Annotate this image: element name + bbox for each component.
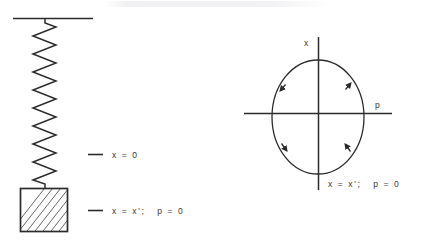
figure-canvas: x = 0 x = x'; p = 0 x p [0,0,436,246]
phase-space-group: x p x = x'; p = 0 [244,37,400,190]
momentum-axis-label: p [375,100,380,110]
equilibrium-label: x = 0 [112,150,139,160]
position-axis-label: x [304,38,309,48]
mass-spring-group: x = 0 x = x'; p = 0 [4,19,184,241]
arrow-lower-right-icon [346,145,351,152]
arrow-upper-left-icon [281,85,286,91]
arrow-upper-right-icon [346,84,351,90]
turning-point-label-left: x = x'; p = 0 [112,206,184,216]
physics-figure: x = 0 x = x'; p = 0 x p [0,0,436,246]
mass-block [4,184,104,240]
arrow-lower-left-icon [282,144,287,151]
turning-point-label-right: x = x'; p = 0 [328,179,400,189]
trajectory-direction-arrows [281,84,351,152]
spring-coil [33,19,56,189]
